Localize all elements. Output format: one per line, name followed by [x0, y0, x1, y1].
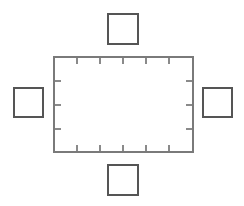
diagram-svg: [0, 0, 244, 206]
canvas-background: [0, 0, 244, 206]
diagram-canvas: [0, 0, 244, 206]
